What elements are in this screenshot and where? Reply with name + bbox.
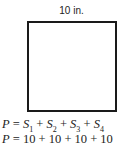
plus: + bbox=[33, 117, 46, 131]
side-length-label: 10 in. bbox=[0, 5, 138, 16]
sum-values: 10 + 10 + 10 + 10 bbox=[23, 132, 113, 146]
perimeter-symbol: P bbox=[2, 132, 10, 146]
square-shape bbox=[27, 21, 117, 112]
plus: + bbox=[57, 117, 70, 131]
perimeter-substitution: P = 10 + 10 + 10 + 10 bbox=[2, 132, 113, 147]
equals: = bbox=[10, 117, 23, 131]
perimeter-symbol: P bbox=[2, 117, 10, 131]
plus: + bbox=[80, 117, 93, 131]
equals: = bbox=[10, 132, 23, 146]
